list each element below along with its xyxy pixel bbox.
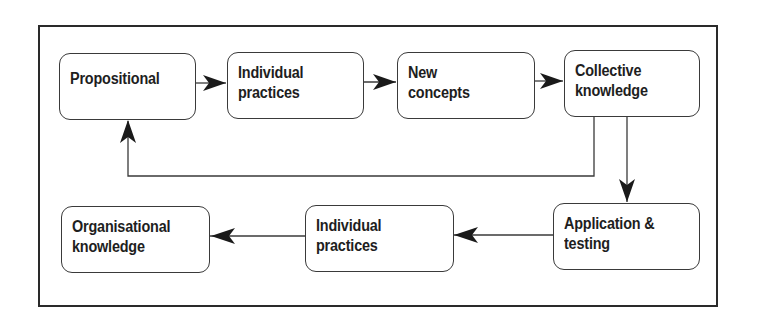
node-new-concepts: New concepts [397, 52, 535, 119]
node-label: Propositional [70, 69, 183, 89]
node-label: New [408, 63, 521, 83]
node-label: practices [238, 83, 351, 103]
node-label: Organisational [72, 217, 195, 237]
node-label: knowledge [575, 81, 687, 101]
node-application-testing: Application & testing [553, 203, 700, 270]
node-label: Individual [316, 216, 439, 236]
node-individual-practices-top: Individual practices [227, 52, 364, 119]
arrow-collective-knowledge-to-propositional [128, 116, 594, 176]
node-propositional: Propositional [59, 53, 196, 120]
node-label: Application & [564, 214, 686, 234]
node-label: practices [316, 236, 439, 256]
node-label: knowledge [72, 237, 195, 257]
node-label: Collective [575, 61, 687, 81]
node-label: testing [564, 234, 686, 254]
node-collective-knowledge: Collective knowledge [564, 50, 700, 117]
node-label: Individual [238, 63, 351, 83]
node-label: concepts [408, 83, 521, 103]
node-organisational-knowledge: Organisational knowledge [61, 206, 210, 273]
node-individual-practices-bottom: Individual practices [305, 205, 454, 272]
